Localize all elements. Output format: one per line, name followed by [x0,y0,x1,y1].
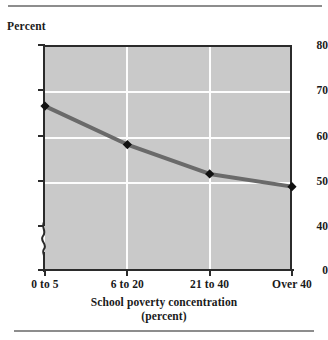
chart-figure: Percent 80706050400 0 to 56 to 2021 to 4… [0,0,328,340]
bottom-divider-rule [14,330,314,332]
x-axis-title-line2: (percent) [0,310,328,322]
series-polyline [45,106,292,187]
data-series-line [0,0,328,340]
data-point-marker [287,182,296,191]
x-axis-title-line1: School poverty concentration [0,296,328,308]
